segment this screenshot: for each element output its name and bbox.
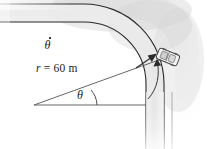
figure-container: r = 60 m θ θ <box>0 0 217 149</box>
diagram-canvas <box>0 0 217 149</box>
